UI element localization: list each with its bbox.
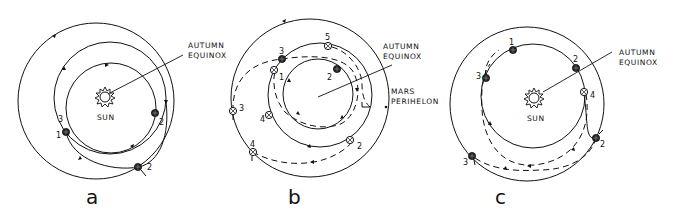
outer-orbit-a [18, 23, 174, 179]
orbit-diagram-figure: SUN AUTUMN EQUINOX 1 3 2 2 a [0, 0, 675, 222]
panel-letter-b: b [288, 185, 301, 209]
point-label: 3 [239, 104, 244, 113]
point-label: 1 [56, 131, 61, 140]
point-label: 2 [357, 142, 362, 151]
equinox-label-line1: AUTUMN [619, 48, 655, 57]
sun-label: SUN [527, 114, 545, 123]
point-label: 3 [476, 72, 481, 81]
planet-marker [151, 109, 158, 116]
point-label: 4 [260, 115, 265, 124]
planet-marker [482, 74, 489, 81]
point-label: 3 [279, 47, 284, 56]
arrow-icon [571, 147, 575, 151]
point-label: 1 [509, 38, 514, 47]
transfer-solid-c [584, 94, 595, 138]
planet-marker [468, 152, 475, 159]
point-label: 1 [279, 73, 284, 82]
planet-marker [592, 134, 599, 141]
planet-marker [278, 55, 285, 62]
point-label: 4 [590, 91, 595, 100]
arrow-icon [164, 100, 168, 104]
equinox-label-line2: EQUINOX [619, 58, 658, 67]
planet-marker [134, 163, 141, 170]
arrow-icon [282, 19, 286, 23]
panel-c: SUN AUTUMN EQUINOX 1 2 3 4 2 3 c [450, 27, 658, 209]
planet-marker [62, 128, 69, 135]
equinox-label-line2: EQUINOX [188, 51, 227, 60]
planet-marker [346, 136, 353, 143]
panel-letter-a: a [86, 185, 98, 209]
planet-marker [324, 42, 331, 49]
point-label: 2 [159, 118, 164, 127]
equinox-label-line1: AUTUMN [383, 42, 419, 51]
perihelion-label-line1: MARS [391, 87, 415, 96]
perihelion-dot [385, 106, 388, 109]
sun-label: SUN [97, 113, 115, 122]
equinox-label-line2: EQUINOX [383, 52, 422, 61]
point-label: 5 [325, 33, 330, 42]
point-label: 3 [58, 115, 63, 124]
arrow-icon [503, 166, 507, 170]
planet-marker [572, 64, 579, 71]
perihelion-label-line2: PERIHELON [391, 97, 439, 106]
equinox-label-line1: AUTUMN [188, 41, 224, 50]
point-label: 2 [600, 140, 605, 149]
point-label: 2 [573, 55, 578, 64]
panel-letter-c: c [495, 185, 506, 209]
equinox-line [108, 55, 183, 94]
panel-b: AUTUMN EQUINOX MARS PERIHELON 1 3 2 5 3 … [229, 19, 438, 209]
panel-a: SUN AUTUMN EQUINOX 1 3 2 2 a [18, 23, 227, 209]
arrow-icon [310, 160, 314, 164]
arrow-icon [52, 34, 56, 38]
planet-marker [265, 111, 272, 118]
arrow-icon [527, 164, 531, 168]
transfer-orbit-c-lower [472, 138, 596, 170]
point-label: 2 [147, 163, 152, 172]
tick-mark [141, 170, 146, 176]
planet-marker [270, 66, 277, 73]
arrow-icon [287, 78, 291, 82]
planet-marker [580, 88, 587, 95]
arrow-icon [296, 111, 300, 115]
planet-marker [509, 46, 516, 53]
point-label: 2 [327, 73, 332, 82]
planet-marker [249, 148, 256, 155]
point-label: 3 [463, 158, 468, 167]
sun-icon [95, 87, 115, 107]
point-label: 4 [250, 140, 255, 149]
planet-marker [333, 65, 340, 72]
arrow-icon [78, 156, 82, 160]
sun-icon [524, 88, 544, 108]
planet-marker [229, 107, 236, 114]
